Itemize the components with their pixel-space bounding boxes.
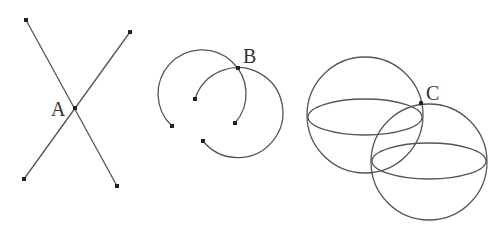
panel-lines: A xyxy=(22,18,132,188)
intersection-point-a xyxy=(73,106,77,110)
endpoint xyxy=(22,177,26,181)
label-c: C xyxy=(426,82,439,104)
arc-left xyxy=(158,50,246,126)
arc-endpoint xyxy=(193,97,197,101)
endpoint xyxy=(128,30,132,34)
arc-endpoint xyxy=(201,139,205,143)
sphere-left-equator xyxy=(308,99,422,135)
endpoint xyxy=(115,184,119,188)
label-a: A xyxy=(51,98,66,120)
label-b: B xyxy=(243,45,256,67)
panel-spheres: C xyxy=(307,57,487,220)
segment-2 xyxy=(24,32,130,179)
sphere-right-equator xyxy=(372,143,486,179)
intersection-point-c xyxy=(419,101,423,105)
panel-circles: B xyxy=(158,45,283,158)
arc-endpoint xyxy=(170,124,174,128)
sphere-left xyxy=(307,57,423,173)
segment-1 xyxy=(26,20,117,186)
sphere-right xyxy=(371,104,487,220)
intersection-diagram: A B C xyxy=(0,0,504,236)
endpoint xyxy=(24,18,28,22)
arc-endpoint xyxy=(233,121,237,125)
intersection-point-b xyxy=(236,66,240,70)
arc-right xyxy=(195,68,283,158)
